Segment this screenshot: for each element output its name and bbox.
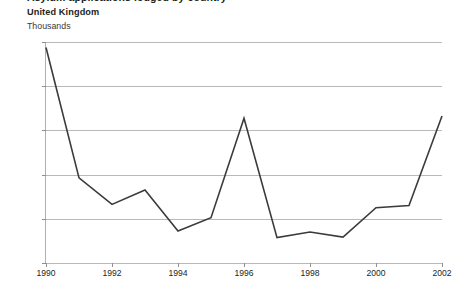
x-tick-mark xyxy=(310,263,311,267)
chart-subtitle-region: United Kingdom xyxy=(27,7,99,17)
x-tick-label: 2002 xyxy=(419,268,455,278)
plot-area: 04008001,2001,6002,000 19901992199419961… xyxy=(46,42,442,263)
x-tick-label: 1990 xyxy=(23,268,69,278)
x-tick-mark xyxy=(376,263,377,267)
x-tick-mark xyxy=(178,263,179,267)
x-tick-label: 2000 xyxy=(353,268,399,278)
x-tick-mark xyxy=(46,263,47,267)
x-tick-label: 1996 xyxy=(221,268,267,278)
x-tick-mark xyxy=(442,263,443,267)
chart-page: Asylum applications lodged by country Un… xyxy=(0,0,455,285)
series-polyline xyxy=(46,48,442,238)
series-line-united-kingdom xyxy=(46,42,442,263)
x-tick-label: 1992 xyxy=(89,268,135,278)
x-tick-mark xyxy=(112,263,113,267)
chart-units-label: Thousands xyxy=(27,21,71,31)
x-tick-label: 1998 xyxy=(287,268,333,278)
x-tick-label: 1994 xyxy=(155,268,201,278)
chart-title-clipped: Asylum applications lodged by country xyxy=(27,0,227,3)
x-tick-mark xyxy=(244,263,245,267)
